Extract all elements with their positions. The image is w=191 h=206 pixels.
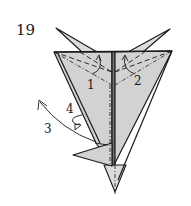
arrow-4-head	[75, 124, 81, 130]
right-horn	[128, 29, 170, 52]
left-flap	[73, 143, 112, 166]
fold-arrow-4	[72, 115, 82, 125]
top-edge	[54, 51, 172, 52]
fold-label-4: 4	[66, 102, 74, 116]
origami-diagram: 19 1 2 3 4	[0, 0, 191, 206]
fold-label-2: 2	[134, 74, 142, 88]
step-number: 19	[16, 21, 35, 39]
fold-label-3: 3	[44, 122, 52, 136]
fold-label-1: 1	[87, 78, 95, 92]
left-horn	[56, 28, 97, 52]
